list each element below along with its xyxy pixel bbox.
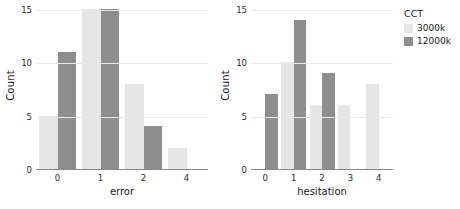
x-tick-label: 0 [251, 173, 279, 185]
bar-group-container-hesitation [251, 10, 393, 169]
legend-item: 12000k [404, 36, 460, 46]
x-tick-label: 0 [36, 173, 79, 185]
y-tick-label: 5 [16, 112, 32, 122]
x-tick-label: 2 [122, 173, 165, 185]
bar-group [365, 10, 393, 169]
x-tick-label: 4 [165, 173, 208, 185]
legend: CCT 3000k12000k [404, 8, 460, 49]
y-tick-label: 10 [231, 58, 247, 68]
y-tick-label: 15 [231, 5, 247, 15]
x-tick-label: 2 [308, 173, 336, 185]
panel-error: Count 051015 0124 error [0, 0, 215, 209]
bar [144, 126, 163, 169]
x-axis-label-hesitation: hesitation [251, 186, 393, 197]
gridline [36, 10, 208, 11]
bar [39, 116, 58, 169]
bar-group [336, 10, 364, 169]
bar [338, 105, 350, 169]
bar [168, 148, 187, 169]
x-axis-line-hesitation [251, 169, 393, 170]
bar-group [251, 10, 279, 169]
y-tick-label: 0 [16, 165, 32, 175]
bar [125, 84, 144, 169]
legend-title: CCT [404, 8, 460, 19]
legend-entries: 3000k12000k [404, 23, 460, 46]
legend-item: 3000k [404, 23, 460, 33]
legend-swatch [404, 37, 413, 46]
bar [82, 9, 101, 169]
y-tick-label: 5 [231, 112, 247, 122]
bar [310, 105, 322, 169]
plot-area-hesitation [251, 10, 393, 170]
y-axis-ticks-hesitation: 051015 [229, 0, 247, 170]
x-axis-ticks-hesitation: 01234 [251, 173, 393, 185]
x-tick-label: 1 [79, 173, 122, 185]
bar [322, 73, 334, 169]
x-tick-label: 4 [365, 173, 393, 185]
bar-chart-figure: Count 051015 0124 error Count 051015 012… [0, 0, 460, 209]
bar-group [36, 10, 79, 169]
y-tick-label: 15 [16, 5, 32, 15]
bar-group-container-error [36, 10, 208, 169]
x-axis-ticks-error: 0124 [36, 173, 208, 185]
gridline [36, 63, 208, 64]
bar-group [79, 10, 122, 169]
bar-group [165, 10, 208, 169]
plot-area-error [36, 10, 208, 170]
bar [101, 9, 120, 169]
y-tick-label: 0 [231, 165, 247, 175]
bar [58, 52, 77, 169]
gridline [251, 63, 393, 64]
y-tick-label: 10 [16, 58, 32, 68]
gridline [36, 117, 208, 118]
x-axis-label-error: error [36, 186, 208, 197]
gridline [251, 10, 393, 11]
bar [294, 20, 306, 169]
bar [366, 84, 378, 169]
gridline [251, 117, 393, 118]
bar-group [122, 10, 165, 169]
legend-swatch [404, 24, 413, 33]
bar-group [279, 10, 307, 169]
bar [265, 94, 277, 169]
bar-group [308, 10, 336, 169]
x-tick-label: 3 [336, 173, 364, 185]
panel-hesitation: Count 051015 01234 hesitation [215, 0, 400, 209]
legend-label: 12000k [417, 36, 451, 46]
x-tick-label: 1 [279, 173, 307, 185]
y-axis-ticks-error: 051015 [14, 0, 32, 170]
legend-label: 3000k [417, 23, 445, 33]
x-axis-line-error [36, 169, 208, 170]
